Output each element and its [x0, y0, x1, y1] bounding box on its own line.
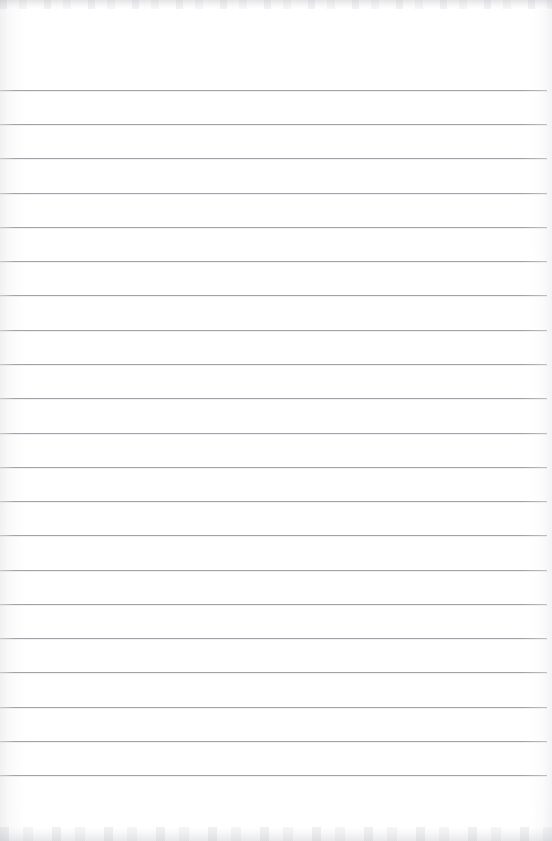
rule-lines-layer	[0, 0, 552, 841]
rule-line	[0, 193, 547, 194]
rule-line	[0, 535, 547, 536]
rule-line	[0, 501, 547, 502]
rule-line	[0, 227, 547, 228]
rule-line	[0, 467, 547, 468]
rule-line	[0, 124, 547, 125]
rule-line	[0, 775, 547, 776]
rule-line	[0, 433, 547, 434]
rule-line	[0, 364, 547, 365]
rule-line	[0, 261, 547, 262]
rule-line	[0, 295, 547, 296]
rule-line	[0, 90, 547, 91]
rule-line	[0, 604, 547, 605]
rule-line	[0, 158, 547, 159]
rule-line	[0, 638, 547, 639]
rule-line	[0, 570, 547, 571]
rule-line	[0, 330, 547, 331]
rule-line	[0, 398, 547, 399]
rule-line	[0, 741, 547, 742]
notepad-page	[0, 0, 552, 841]
rule-line	[0, 672, 547, 673]
rule-line	[0, 707, 547, 708]
